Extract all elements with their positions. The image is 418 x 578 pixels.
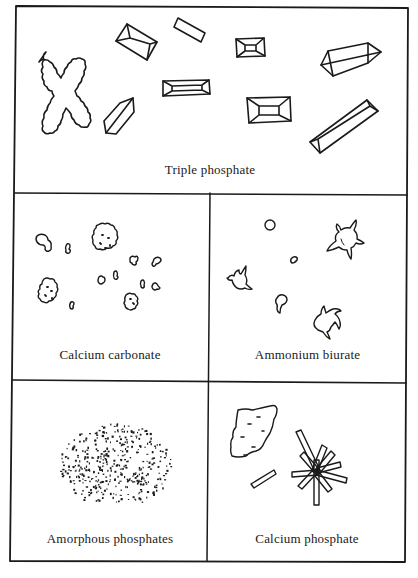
needle-rosette-icon <box>292 430 347 505</box>
coffin-lid-crystal-icon <box>116 24 157 60</box>
long-prism-crystal-icon <box>310 100 378 153</box>
feathery-x-crystal-icon <box>39 52 91 134</box>
prism-bar-icon <box>174 18 205 42</box>
label-amorphous-phosphates: Amorphous phosphates <box>15 531 205 547</box>
ammonium-biurate-crystals <box>227 220 364 339</box>
rectangle-envelope-crystal-icon <box>247 97 291 123</box>
label-calcium-phosphate: Calcium phosphate <box>212 531 402 547</box>
amorphous-phosphate-dots <box>60 423 172 503</box>
urine-crystals-figure: Triple phosphate Calcium carbonate Ammon… <box>0 0 418 578</box>
hex-prism-crystal-icon <box>321 43 381 76</box>
label-ammonium-biurate: Ammonium biurate <box>215 347 400 363</box>
label-triple-phosphate: Triple phosphate <box>120 162 300 178</box>
triple-phosphate-crystals <box>39 18 381 153</box>
calcium-carbonate-crystals <box>36 223 161 310</box>
diamond-prism-crystal-icon <box>104 98 134 134</box>
calcium-phosphate-crystals <box>231 405 347 505</box>
flat-prism-crystal-icon <box>163 80 210 96</box>
envelope-crystal-icon <box>236 38 265 57</box>
figure-drawing <box>0 0 418 578</box>
label-calcium-carbonate: Calcium carbonate <box>20 347 200 363</box>
